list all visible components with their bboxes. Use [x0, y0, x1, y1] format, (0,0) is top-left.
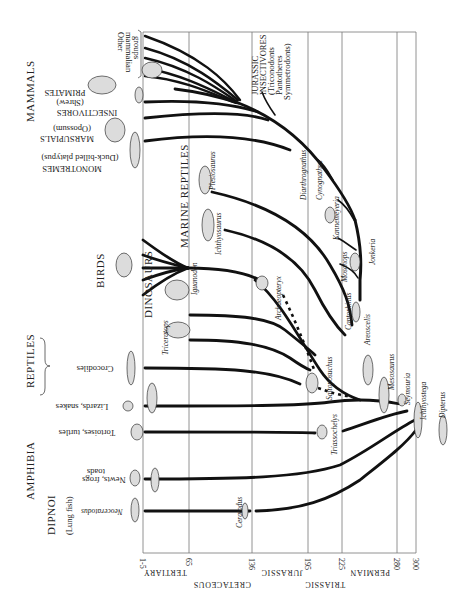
- shrew-illustration: [135, 87, 143, 103]
- lower-branches: [145, 400, 416, 511]
- period-tertiary: TERTIARY: [143, 568, 186, 577]
- neoceratodus-illustration: [131, 498, 139, 522]
- label-seymouria: Seymouria: [403, 373, 412, 405]
- group-amphibia: AMPHIBIA: [24, 442, 36, 500]
- period-triassic: TRIASSIC: [305, 580, 345, 589]
- label-saltoposuchus: Saltoposuchus: [325, 357, 334, 400]
- group-dipnoi: DIPNOI: [45, 495, 57, 535]
- period-labels: TERTIARY JURASSIC PERMIAN CRETACEOUS TRI…: [143, 568, 390, 589]
- areoscelis-illustration: [363, 355, 373, 385]
- label-ceratodus: Ceratodus: [235, 497, 244, 528]
- snake-illustration: [123, 401, 133, 411]
- opossum-illustration: [105, 118, 125, 142]
- tick-225: 225: [337, 558, 346, 570]
- group-reptiles: REPTILES: [24, 334, 36, 388]
- group-dinosaurs: DINOSAURS: [142, 251, 154, 318]
- saltoposuchus-illustration: [306, 373, 318, 393]
- captorhinus-illustration: [352, 302, 360, 322]
- label-archaeopteryx: Archaeopteryx: [274, 275, 283, 321]
- label-dipterus: Dipterus: [438, 392, 447, 419]
- reptiles-brace: [40, 338, 50, 395]
- label-duck-billed-platypus: (Duck-billed platypus): [41, 153, 118, 163]
- moschops-illustration: [350, 253, 360, 271]
- label-lizards-snakes: Lizards, snakes: [56, 402, 108, 412]
- dipterus-illustration: [439, 415, 447, 445]
- label-symmetrodonts: Symmetrodonts): [282, 43, 292, 100]
- label-kannemeyeria: Kannemeyeria: [332, 196, 341, 241]
- label-cynognathus: Cynognathus: [315, 160, 324, 200]
- ichthyosaurus-illustration: [202, 209, 214, 241]
- period-permian: PERMIAN: [350, 568, 390, 577]
- label-other-mammalian-3: groups: [132, 36, 142, 59]
- label-triassochelys: Triassochelys: [330, 414, 339, 455]
- tortoise-illustration: [131, 424, 143, 440]
- label-toads: toads: [87, 467, 105, 477]
- tick-280: 280: [392, 558, 401, 570]
- label-shrew: (Shrew): [56, 98, 84, 108]
- group-mammals: MAMMALS: [24, 60, 36, 122]
- newt-illustration: [130, 470, 140, 486]
- tick-1-5: 1-5: [138, 558, 147, 569]
- fossil-labels: JURASSIC INSECTIVORES (Triconodonts Pant…: [161, 34, 447, 528]
- label-triceratops: Triceratops: [161, 320, 170, 355]
- group-marine-reptiles: MARINE REPTILES: [178, 144, 190, 248]
- primate-illustration: [142, 62, 162, 78]
- label-ichthyostega: Ichthyostega: [419, 381, 428, 421]
- label-areoscelis: Areoscelis: [363, 314, 372, 346]
- tick-65: 65: [184, 558, 193, 566]
- bird-illustration: [116, 253, 132, 277]
- label-opossum: (Opossum): [53, 124, 91, 134]
- period-cretaceous: CRETACEOUS: [193, 580, 251, 589]
- iguanodon-illustration: [165, 280, 189, 300]
- label-neoceratodus: Neoceratodus: [81, 507, 124, 516]
- label-iguanodon: Iguanodon: [190, 262, 199, 296]
- label-marsupials: MARSUPIALS: [40, 134, 94, 144]
- frog-illustration: [151, 468, 159, 492]
- label-diarthrognathus: Diarthrognathus: [299, 150, 308, 201]
- primate-figure-illustration: [88, 76, 116, 94]
- period-jurassic: JURASSIC: [261, 568, 303, 577]
- label-crocodiles: Crocodiles: [77, 364, 114, 374]
- archaeopteryx-illustration: [256, 276, 268, 290]
- label-captorhinus: Captorhinus: [344, 293, 353, 330]
- label-lung-fish: (Lung fish): [64, 496, 74, 535]
- label-tortoises-turtles: Tortoises, turtles: [59, 428, 116, 438]
- platypus-illustration: [130, 132, 140, 168]
- label-plesiosaurus: Plesiosaurus: [208, 151, 217, 191]
- label-primates: PRIMATES: [44, 88, 85, 98]
- label-moschops: Moschops: [340, 252, 349, 283]
- label-ichthyosaurus: Ichthyosaurus: [214, 212, 223, 256]
- label-insectivores: INSECTIVORES: [57, 108, 118, 118]
- tick-136: 136: [247, 558, 256, 570]
- group-birds: BIRDS: [94, 253, 106, 288]
- label-monotremes: MONOTREMES: [42, 164, 102, 174]
- label-mesosaurus: Mesosaurus: [387, 354, 396, 391]
- crocodile-illustration: [127, 351, 135, 385]
- phylogeny-diagram: 1-5 65 136 195 225 280 300 TERTIARY JURA…: [0, 0, 463, 591]
- lizard-illustration: [147, 383, 157, 413]
- tick-195: 195: [303, 558, 312, 570]
- label-jonkeria: Jonkeria: [368, 239, 377, 265]
- tick-300: 300: [411, 558, 420, 570]
- triassochelys-illustration: [317, 425, 327, 439]
